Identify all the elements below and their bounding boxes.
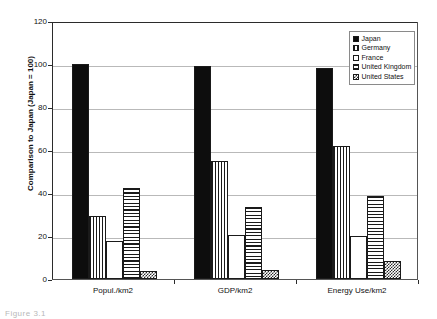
x-axis-tick-labels: Popul./km2GDP/km2Energy Use/km2: [52, 286, 418, 300]
bar: [333, 146, 350, 279]
bar: [123, 188, 140, 279]
x-axis-tick-marks: [52, 280, 418, 285]
legend-item[interactable]: United States: [353, 72, 412, 81]
y-axis-tick-marks: [0, 22, 52, 280]
chart-figure: Comparison to Japan (Japan = 100) 020406…: [0, 0, 437, 319]
legend-item-label: Germany: [362, 44, 391, 52]
x-axis-tick-label: Popul./km2: [93, 286, 133, 295]
bar: [245, 207, 262, 279]
bar: [194, 66, 211, 279]
legend-item[interactable]: Germany: [353, 44, 412, 53]
legend-swatch-icon: [353, 36, 359, 42]
bar: [350, 236, 367, 279]
bar: [211, 161, 228, 279]
bar: [316, 68, 333, 279]
bar: [106, 241, 123, 279]
legend-swatch-icon: [353, 45, 359, 51]
legend-item-label: United States: [362, 73, 404, 81]
bar-group: [53, 23, 175, 279]
bar: [89, 216, 106, 279]
legend-item[interactable]: France: [353, 53, 412, 62]
legend-swatch-icon: [353, 74, 359, 80]
legend-item[interactable]: Japan: [353, 34, 412, 43]
bar: [140, 271, 157, 279]
bar: [72, 64, 89, 279]
bar: [228, 235, 245, 279]
x-axis-tick-mark: [174, 280, 175, 284]
bar-group: [175, 23, 297, 279]
legend-item-label: Japan: [362, 35, 381, 43]
legend-item[interactable]: United Kingdom: [353, 63, 412, 72]
x-axis-tick-label: GDP/km2: [218, 286, 253, 295]
x-axis-tick-mark: [296, 280, 297, 284]
legend-item-label: France: [362, 54, 384, 62]
figure-caption: Figure 3.1: [5, 309, 46, 318]
x-axis-tick-mark: [418, 280, 419, 284]
legend-swatch-icon: [353, 55, 359, 61]
legend-swatch-icon: [353, 64, 359, 70]
chart-legend: JapanGermanyFranceUnited KingdomUnited S…: [349, 31, 415, 85]
bar: [384, 261, 401, 279]
bar: [262, 270, 279, 279]
x-axis-tick-label: Energy Use/km2: [327, 286, 386, 295]
legend-item-label: United Kingdom: [362, 63, 412, 71]
bar: [367, 196, 384, 279]
